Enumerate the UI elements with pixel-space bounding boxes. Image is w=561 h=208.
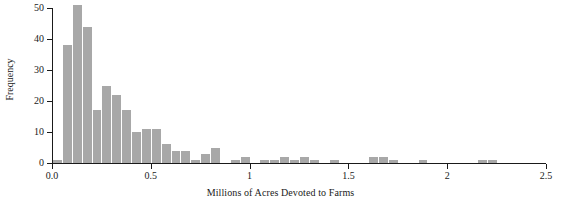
histogram-bar xyxy=(171,151,181,163)
histogram-bar xyxy=(72,5,82,163)
x-tick-label: 1.5 xyxy=(328,170,368,181)
x-tick-label: 0.0 xyxy=(32,170,72,181)
x-tick-label: 2.5 xyxy=(526,170,561,181)
x-axis-line xyxy=(52,163,546,164)
y-axis-title: Frequency xyxy=(4,35,15,125)
x-tick-mark xyxy=(348,164,349,169)
histogram-bar xyxy=(151,129,161,163)
histogram-bar xyxy=(121,110,131,163)
histogram-bar xyxy=(92,110,102,163)
histogram-bar xyxy=(82,27,92,163)
y-tick-mark xyxy=(47,70,52,71)
histogram-chart: 01020304050 0.00.511.522.5 Millions of A… xyxy=(0,0,561,208)
x-tick-mark xyxy=(546,164,547,169)
histogram-bar xyxy=(101,86,111,164)
x-tick-label: 0.5 xyxy=(131,170,171,181)
y-tick-mark xyxy=(47,101,52,102)
y-axis-line xyxy=(52,8,53,164)
y-tick-mark xyxy=(47,132,52,133)
histogram-bar xyxy=(131,132,141,163)
x-tick-label: 2 xyxy=(427,170,467,181)
y-tick-label: 10 xyxy=(0,127,44,137)
x-tick-mark xyxy=(52,164,53,169)
bar-series xyxy=(52,8,546,163)
y-tick-label: 0 xyxy=(0,158,44,168)
histogram-bar xyxy=(210,148,220,164)
x-axis-title: Millions of Acres Devoted to Farms xyxy=(0,187,561,198)
histogram-bar xyxy=(180,151,190,163)
histogram-bar xyxy=(200,154,210,163)
plot-area xyxy=(52,8,546,163)
histogram-bar xyxy=(111,95,121,163)
histogram-bar xyxy=(141,129,151,163)
y-tick-mark xyxy=(47,39,52,40)
x-tick-mark xyxy=(447,164,448,169)
x-tick-label: 1 xyxy=(230,170,270,181)
histogram-bar xyxy=(62,45,72,163)
x-tick-mark xyxy=(250,164,251,169)
y-tick-mark xyxy=(47,8,52,9)
x-tick-mark xyxy=(151,164,152,169)
histogram-bar xyxy=(161,144,171,163)
y-tick-label: 50 xyxy=(0,3,44,13)
